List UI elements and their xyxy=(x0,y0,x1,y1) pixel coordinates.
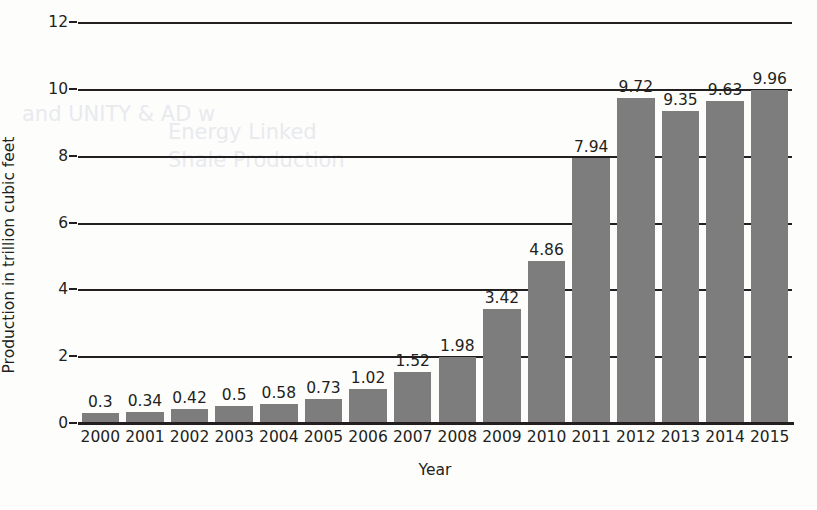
x-axis-tick-label: 2015 xyxy=(747,428,792,446)
bar[interactable] xyxy=(617,98,654,423)
y-axis-tick-mark xyxy=(69,355,77,357)
bar-slot[interactable]: 1.02 xyxy=(346,22,391,423)
bar[interactable] xyxy=(528,261,565,423)
y-axis-tick-label: 2 xyxy=(58,347,68,365)
bar-value-label: 0.42 xyxy=(172,389,207,407)
bar[interactable] xyxy=(662,111,699,423)
y-axis-tick-label: 8 xyxy=(58,147,68,165)
bar-slot[interactable]: 0.5 xyxy=(212,22,257,423)
bar-slot[interactable]: 0.73 xyxy=(301,22,346,423)
y-axis-tick-labels: 024681012 xyxy=(0,0,78,510)
bar-value-label: 4.86 xyxy=(529,241,564,259)
x-axis-tick-label: 2006 xyxy=(346,428,391,446)
bar-value-label: 0.5 xyxy=(222,386,247,404)
plot-area: 0.30.340.420.50.580.731.021.521.983.424.… xyxy=(78,22,792,423)
bar[interactable] xyxy=(572,158,609,423)
bar[interactable] xyxy=(215,406,252,423)
bar[interactable] xyxy=(706,101,743,423)
x-axis-tick-label: 2013 xyxy=(658,428,703,446)
bar-value-label: 9.96 xyxy=(752,70,787,88)
y-axis-tick-mark xyxy=(69,288,77,290)
bar[interactable] xyxy=(171,409,208,423)
y-axis-tick-mark xyxy=(69,88,77,90)
y-axis-tick-mark xyxy=(69,422,77,424)
bar-value-label: 9.72 xyxy=(619,78,654,96)
y-axis-tick-mark xyxy=(69,222,77,224)
y-axis-tick-label: 0 xyxy=(58,414,68,432)
bar-value-label: 0.58 xyxy=(262,384,297,402)
bar[interactable] xyxy=(394,372,431,423)
bar-value-label: 0.3 xyxy=(88,393,113,411)
bar-slot[interactable]: 1.98 xyxy=(435,22,480,423)
y-axis-tick-label: 12 xyxy=(48,13,68,31)
bar-value-label: 9.35 xyxy=(663,91,698,109)
x-axis-tick-label: 2009 xyxy=(480,428,525,446)
bar[interactable] xyxy=(439,357,476,423)
bar-slot[interactable]: 1.52 xyxy=(390,22,435,423)
bar-slot[interactable]: 9.72 xyxy=(614,22,659,423)
bar-value-label: 3.42 xyxy=(485,289,520,307)
bar-slot[interactable]: 7.94 xyxy=(569,22,614,423)
bar[interactable] xyxy=(483,309,520,423)
y-axis-tick-mark xyxy=(69,21,77,23)
x-axis-tick-label: 2001 xyxy=(123,428,168,446)
x-axis-tick-label: 2005 xyxy=(301,428,346,446)
x-axis-tick-label: 2002 xyxy=(167,428,212,446)
bar-slot[interactable]: 0.58 xyxy=(257,22,302,423)
x-axis-tick-label: 2000 xyxy=(78,428,123,446)
bar-value-label: 1.98 xyxy=(440,337,475,355)
bar[interactable] xyxy=(751,90,788,423)
bar-value-label: 1.52 xyxy=(395,352,430,370)
bar-slot[interactable]: 0.34 xyxy=(123,22,168,423)
y-axis-tick-label: 10 xyxy=(48,80,68,98)
x-axis-tick-label: 2008 xyxy=(435,428,480,446)
bar-slot[interactable]: 9.63 xyxy=(703,22,748,423)
x-axis-tick-label: 2003 xyxy=(212,428,257,446)
x-axis-tick-label: 2011 xyxy=(569,428,614,446)
bar-slot[interactable]: 9.96 xyxy=(747,22,792,423)
bar-slot[interactable]: 4.86 xyxy=(524,22,569,423)
bar-slot[interactable]: 3.42 xyxy=(480,22,525,423)
chart-figure: and UNITY & AD w Energy Linked Shale Pro… xyxy=(0,0,817,510)
bar[interactable] xyxy=(349,389,386,423)
x-axis-tick-label: 2014 xyxy=(703,428,748,446)
y-axis-tick-label: 6 xyxy=(58,214,68,232)
bar[interactable] xyxy=(260,404,297,423)
bar-value-label: 7.94 xyxy=(574,138,609,156)
bar-value-label: 1.02 xyxy=(351,369,386,387)
bar-slot[interactable]: 9.35 xyxy=(658,22,703,423)
y-axis-tick-label: 4 xyxy=(58,280,68,298)
y-axis-tick-mark xyxy=(69,155,77,157)
x-axis-title: Year xyxy=(78,461,792,479)
bar-slot[interactable]: 0.42 xyxy=(167,22,212,423)
bar-value-label: 0.34 xyxy=(128,392,163,410)
bar-value-label: 9.63 xyxy=(708,81,743,99)
x-axis-line xyxy=(78,422,794,425)
x-axis-tick-labels: 2000200120022003200420052006200720082009… xyxy=(78,428,792,452)
bar[interactable] xyxy=(305,399,342,423)
bar-series: 0.30.340.420.50.580.731.021.521.983.424.… xyxy=(78,22,792,423)
bar-value-label: 0.73 xyxy=(306,379,341,397)
x-axis-tick-label: 2012 xyxy=(614,428,659,446)
bar-slot[interactable]: 0.3 xyxy=(78,22,123,423)
x-axis-tick-label: 2004 xyxy=(257,428,302,446)
x-axis-tick-label: 2007 xyxy=(390,428,435,446)
x-axis-tick-label: 2010 xyxy=(524,428,569,446)
